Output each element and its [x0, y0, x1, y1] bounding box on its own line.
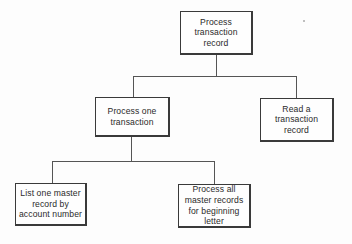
connector-to-process-all: [214, 161, 215, 184]
node-label: Process transaction record: [194, 17, 237, 49]
node-label: Process all master records for beginning…: [185, 184, 244, 226]
connector-to-list-master: [52, 161, 53, 183]
node-process-one-transaction: Process one transaction: [95, 97, 170, 137]
node-label: List one master record by account number: [19, 188, 82, 220]
node-process-all-master-records: Process all master records for beginning…: [178, 184, 251, 228]
node-list-one-master-record: List one master record by account number: [15, 183, 87, 226]
hierarchy-diagram: Process transaction record Process one t…: [0, 0, 352, 244]
connector-to-read-record: [296, 76, 297, 98]
connector-process-one-bar: [52, 161, 215, 162]
node-label: Read a transaction record: [275, 104, 318, 136]
node-process-transaction-record: Process transaction record: [180, 11, 253, 55]
node-read-transaction-record: Read a transaction record: [260, 98, 334, 142]
connector-process-one-trunk: [131, 137, 132, 161]
connector-root-trunk: [216, 55, 217, 76]
connector-to-process-one: [133, 76, 134, 97]
node-label: Process one transaction: [108, 106, 157, 127]
connector-root-bar: [133, 76, 297, 77]
scan-speck: [303, 20, 305, 22]
